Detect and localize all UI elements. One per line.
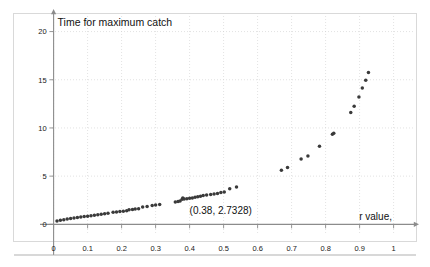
- data-point: [212, 192, 216, 196]
- data-point: [364, 78, 368, 82]
- data-point: [55, 219, 59, 223]
- y-tick-label-1: 5: [42, 172, 46, 181]
- data-point: [79, 215, 83, 219]
- data-point: [106, 211, 110, 215]
- figure-container: 00.10.20.30.40.50.60.70.80.9105101520 Ti…: [0, 0, 430, 267]
- y-tick-label-0: 0: [42, 220, 46, 229]
- y-tick-label-2: 10: [38, 124, 46, 133]
- x-tick-label-3: 0.3: [150, 244, 160, 253]
- data-point: [118, 210, 122, 214]
- gridlines: [40, 16, 414, 233]
- data-point: [223, 190, 227, 194]
- data-point: [62, 218, 66, 222]
- data-point: [69, 217, 73, 221]
- data-point: [115, 210, 119, 214]
- data-point: [59, 219, 63, 223]
- data-point: [111, 211, 115, 215]
- data-point: [141, 205, 145, 209]
- data-point: [361, 86, 365, 90]
- scatter-chart: 00.10.20.30.40.50.60.70.80.9105101520 Ti…: [0, 0, 430, 267]
- chart-title: Time for maximum catch: [58, 16, 173, 28]
- data-point: [89, 214, 93, 218]
- data-point: [122, 209, 126, 213]
- data-point: [86, 214, 90, 218]
- x-tick-label-9: 0.9: [354, 244, 364, 253]
- data-point: [318, 145, 322, 149]
- x-tick-label-4: 0.4: [184, 244, 194, 253]
- tick-labels: 00.10.20.30.40.50.60.70.80.9105101520: [38, 27, 395, 253]
- data-point: [103, 212, 107, 216]
- data-point-annotation: (0.38, 2.7328): [190, 205, 252, 216]
- x-tick-label-8: 0.8: [320, 244, 330, 253]
- y-axis-arrow: [51, 9, 56, 14]
- data-point: [72, 216, 76, 220]
- data-point: [332, 132, 336, 136]
- data-point: [306, 154, 310, 158]
- data-point: [158, 203, 162, 207]
- x-tick-label-10: 1: [392, 244, 396, 253]
- x-axis-label: r value,: [359, 211, 392, 222]
- x-tick-label-0: 0: [52, 244, 56, 253]
- data-point: [127, 208, 131, 212]
- y-tick-label-4: 20: [38, 27, 46, 36]
- data-point: [133, 207, 137, 211]
- data-point: [145, 205, 149, 209]
- x-tick-label-5: 0.5: [218, 244, 228, 253]
- x-tick-label-1: 0.1: [82, 244, 92, 253]
- data-point: [216, 192, 220, 196]
- data-point: [76, 216, 80, 220]
- data-point: [357, 95, 361, 99]
- data-point: [219, 191, 223, 195]
- data-points: [55, 71, 370, 223]
- data-point: [280, 169, 284, 173]
- data-point: [201, 194, 205, 198]
- data-point: [235, 185, 239, 189]
- data-point: [65, 217, 69, 221]
- data-point: [82, 215, 86, 219]
- data-point: [228, 187, 232, 191]
- data-point: [209, 193, 213, 197]
- data-point: [352, 105, 356, 109]
- x-axis-arrow: [414, 222, 419, 227]
- x-tick-label-6: 0.6: [252, 244, 262, 253]
- data-point: [137, 207, 141, 211]
- data-point: [349, 111, 353, 115]
- data-point: [96, 213, 100, 217]
- data-point: [154, 203, 158, 207]
- x-tick-label-2: 0.2: [116, 244, 126, 253]
- data-point: [205, 193, 209, 197]
- data-point: [299, 157, 303, 161]
- data-point: [286, 166, 290, 170]
- data-point: [99, 212, 103, 216]
- y-tick-label-3: 15: [38, 76, 46, 85]
- data-point: [93, 213, 97, 217]
- plot-surface: 00.10.20.30.40.50.60.70.80.9105101520 Ti…: [0, 0, 430, 267]
- x-tick-label-7: 0.7: [286, 244, 296, 253]
- data-point: [367, 71, 371, 75]
- data-point: [150, 204, 154, 208]
